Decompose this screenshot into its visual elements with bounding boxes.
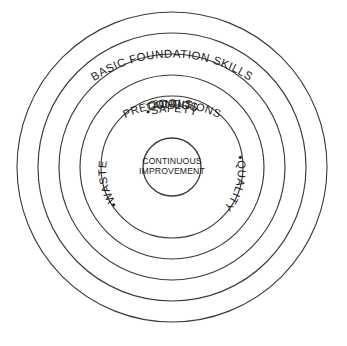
satellite-label-quality-path: •QUALITY bbox=[222, 154, 248, 214]
core-label-line2: IMPROVEMENT bbox=[139, 166, 205, 176]
satellite-label-waste: •WASTE bbox=[96, 160, 119, 210]
satellite-label-quality: •QUALITY bbox=[222, 154, 248, 214]
quality-label-text: QUALITY bbox=[222, 160, 248, 215]
ring-label-basic-foundation-skills-text: BASIC FOUNDATION SKILLS bbox=[89, 47, 256, 82]
satellite-label-waste-path: •WASTE bbox=[96, 160, 119, 210]
waste-label-text: WASTE bbox=[96, 160, 117, 205]
diagram-canvas: BASIC FOUNDATION SKILLS TOOLS PRECONDITI… bbox=[0, 0, 347, 346]
ring-label-basic-foundation-skills: BASIC FOUNDATION SKILLS bbox=[89, 47, 256, 82]
core-label-line1: CONTINUOUS bbox=[142, 156, 202, 166]
concentric-circles-diagram: BASIC FOUNDATION SKILLS TOOLS PRECONDITI… bbox=[0, 0, 347, 346]
